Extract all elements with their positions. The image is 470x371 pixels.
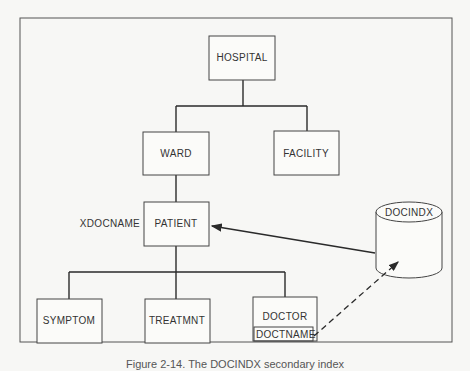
segment-symptom-label: SYMPTOM [43,315,95,326]
docindx-database: DOCINDX [376,202,442,278]
segment-doctor: DOCTOR DOCTNAME [253,297,317,341]
segment-ward-label: WARD [160,148,191,159]
segment-hospital: HOSPITAL [209,36,275,80]
index-pointer-arrow [212,226,375,253]
segment-facility: FACILITY [274,131,339,175]
hierarchy-connectors [69,80,307,299]
segment-patient: PATIENT [144,202,209,246]
segment-patient-label: PATIENT [155,218,198,229]
segment-treatmnt-label: TREATMNT [149,315,205,326]
docindx-label: DOCINDX [385,207,433,218]
index-source-dashed-arrow [314,262,398,336]
diagram-canvas: HOSPITAL WARD FACILITY PATIENT XDOCNAME … [0,0,470,371]
segment-treatmnt: TREATMNT [145,299,210,343]
figure-caption: Figure 2-14. The DOCINDX secondary index [126,358,345,370]
segment-symptom: SYMPTOM [37,299,102,343]
segment-doctor-label: DOCTOR [263,311,308,322]
segment-facility-label: FACILITY [283,148,329,159]
doctname-field-label: DOCTNAME [256,329,316,340]
segment-ward: WARD [143,132,209,175]
xdocname-label: XDOCNAME [80,218,140,229]
segment-hospital-label: HOSPITAL [216,52,267,63]
